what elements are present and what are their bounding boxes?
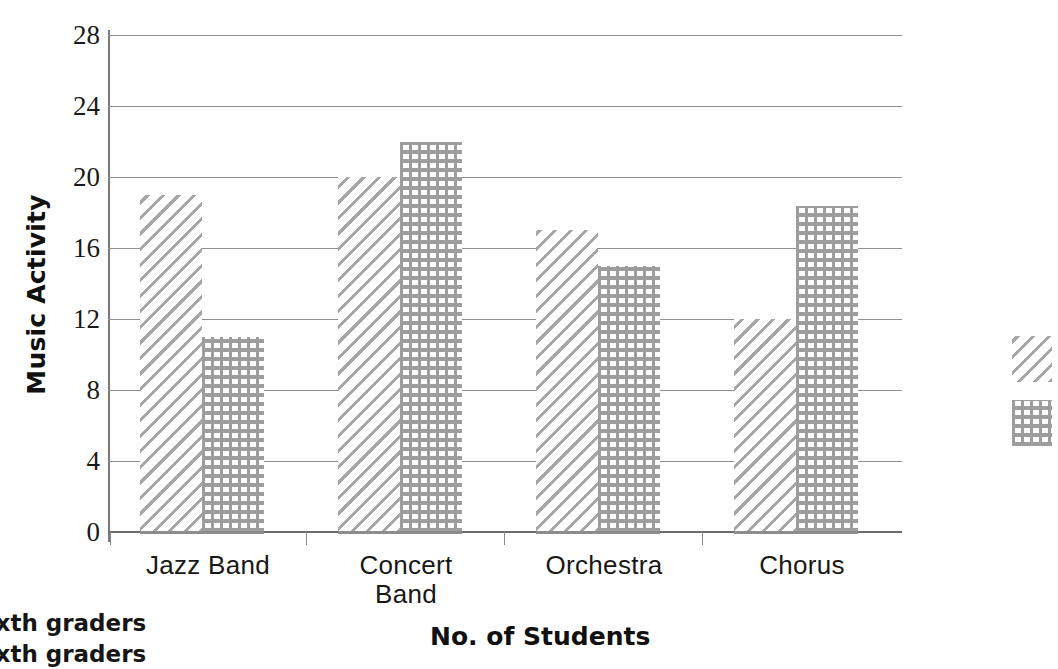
- bar-chorus-sixth-graders[interactable]: [796, 206, 858, 532]
- category-label-line: Band: [311, 580, 501, 609]
- x-tick-div-1: [306, 532, 307, 545]
- y-tick-28: 28: [42, 20, 100, 51]
- y-tick-16: 16: [42, 233, 100, 264]
- category-label-jazz-band: Jazz Band: [113, 551, 303, 580]
- y-tick-20: 20: [42, 162, 100, 193]
- category-label-line: Concert: [311, 551, 501, 580]
- y-axis-tick-labels: 28 24 20 16 12 8 4 0: [42, 0, 100, 666]
- bar-jazz-band-fifth-graders[interactable]: [140, 195, 202, 532]
- bar-concert-band-sixth-graders[interactable]: [400, 142, 462, 532]
- legend: sixth graders sixth graders: [0, 608, 146, 669]
- legend-swatch-diagonal-hatch-icon: [1012, 336, 1052, 382]
- bar-jazz-band-sixth-graders[interactable]: [202, 337, 264, 532]
- bar-orchestra-sixth-graders[interactable]: [598, 266, 660, 532]
- gridline-24: [108, 106, 902, 107]
- category-label-concert-band: Concert Band: [311, 551, 501, 609]
- bar-orchestra-fifth-graders[interactable]: [536, 230, 598, 532]
- y-tick-12: 12: [42, 304, 100, 335]
- category-label-line: Chorus: [707, 551, 897, 580]
- plot-area: [108, 35, 902, 532]
- legend-label-fifth-graders: sixth graders: [0, 608, 146, 639]
- y-tick-4: 4: [42, 446, 100, 477]
- legend-label-sixth-graders: sixth graders: [0, 639, 146, 669]
- category-label-line: Orchestra: [509, 551, 699, 580]
- x-tick-div-2: [504, 532, 505, 545]
- legend-swatches: [1012, 336, 1058, 464]
- category-label-chorus: Chorus: [707, 551, 897, 580]
- gridline-16: [108, 248, 902, 249]
- bar-chorus-fifth-graders[interactable]: [734, 319, 796, 532]
- legend-swatch-dotted-grid-icon: [1012, 400, 1052, 446]
- y-tick-0: 0: [42, 517, 100, 548]
- category-label-orchestra: Orchestra: [509, 551, 699, 580]
- bar-concert-band-fifth-graders[interactable]: [338, 177, 400, 532]
- y-tick-24: 24: [42, 91, 100, 122]
- gridline-28: [108, 35, 902, 36]
- category-label-line: Jazz Band: [113, 551, 303, 580]
- x-tick-start: [110, 532, 111, 545]
- x-tick-div-3: [702, 532, 703, 545]
- x-axis-title: No. of Students: [430, 622, 650, 651]
- gridline-20: [108, 177, 902, 178]
- y-tick-8: 8: [42, 375, 100, 406]
